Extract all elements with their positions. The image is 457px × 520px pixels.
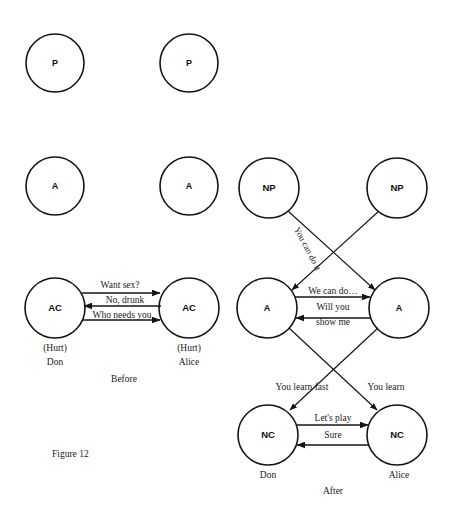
before-don-name: Don [47,357,64,367]
before-alice-adapted-child-label: AC [182,302,196,313]
after-person-captions: Don Alice After [260,470,409,496]
after-phase-label: After [323,486,344,496]
after-line-don-a-to-alice-nc [289,328,377,410]
after-don-natural-child-label: NC [261,429,275,440]
before-don-parent-label: P [52,58,58,68]
before-alice-adult-label: A [186,181,193,191]
after-message-you-learn: You learn [368,382,405,392]
after-message-show-me: show me [316,317,350,327]
after-message-you-learn-fast: You learn fast [276,382,329,392]
figure-caption: Figure 12 [52,449,89,459]
after-line-alice-a-to-don-nc [290,328,378,410]
after-alice-nurturing-parent-label: NP [390,182,404,193]
figure-container: P A AC P A AC Want sex? No, drunk Who ne… [0,0,457,520]
after-don-nurturing-parent-label: NP [262,182,276,193]
before-don-ego-states: P A AC [25,34,85,338]
before-transaction-labels: Want sex? No, drunk Who needs you [92,280,151,320]
after-don-ego-states: NP A NC [237,158,299,465]
before-don-feeling: (Hurt) [43,343,67,354]
after-line-don-np-to-alice-a [288,211,375,290]
after-don-name: Don [260,470,277,480]
after-message-sure: Sure [324,430,341,440]
before-message-no-drunk: No, drunk [106,295,145,305]
after-child-child-labels: Let's play Sure [315,413,352,440]
after-alice-name: Alice [389,470,410,480]
before-alice-ego-states: P A AC [159,34,219,338]
before-message-want-sex: Want sex? [100,280,139,290]
after-message-we-can-do: We can do… [308,286,357,296]
before-don-adult-label: A [52,181,59,191]
after-adult-child-labels: You learn fast You learn [276,382,405,392]
before-don-adapted-child-label: AC [48,302,62,313]
after-message-lets-play: Let's play [315,413,352,423]
after-alice-natural-child-label: NC [390,429,404,440]
after-message-will-you: Will you [316,302,349,312]
after-message-you-can-do-it: You can do it [292,225,324,272]
before-alice-name: Alice [179,357,200,367]
after-alice-adult-label: A [396,303,403,313]
before-alice-feeling: (Hurt) [177,343,201,354]
after-crossed-adult-child-lines [289,328,378,410]
before-message-who-needs-you: Who needs you [92,310,151,320]
before-phase-label: Before [111,374,137,384]
before-person-captions: (Hurt) Don (Hurt) Alice Before [43,343,201,384]
before-alice-parent-label: P [186,58,192,68]
after-crossed-parent-adult-lines [288,211,379,290]
after-alice-ego-states: NP A NC [367,158,429,465]
diagram-canvas: P A AC P A AC Want sex? No, drunk Who ne… [0,0,457,520]
after-don-adult-label: A [264,303,271,313]
after-adult-adult-labels: We can do… Will you show me [308,286,357,327]
